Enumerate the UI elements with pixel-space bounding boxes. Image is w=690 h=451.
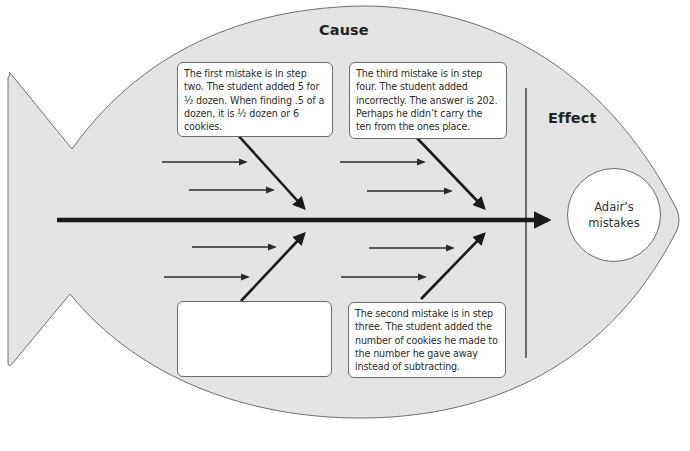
cause-box-empty: [177, 301, 332, 377]
cause-heading: Cause: [319, 22, 369, 38]
effect-heading: Effect: [548, 110, 596, 126]
effect-label: Adair’s mistakes: [574, 199, 654, 231]
cause-box-second-mistake: The second mistake is in step three. The…: [348, 302, 506, 378]
cause-box-third-mistake: The third mistake is in step four. The s…: [349, 62, 507, 139]
effect-circle: Adair’s mistakes: [567, 168, 661, 262]
cause-box-first-mistake: The first mistake is in step two. The st…: [177, 62, 333, 137]
